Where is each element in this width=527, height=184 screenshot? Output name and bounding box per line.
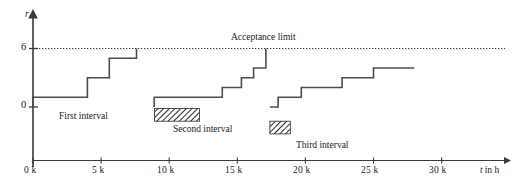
x-tick-label-15: 15 k: [225, 166, 242, 176]
series-second-interval: [154, 49, 266, 108]
x-tick-label-10: 10 k: [157, 166, 174, 176]
x-axis-label-symbol: t: [480, 165, 483, 175]
reliability-step-chart: r 6 0 0 k 5 k 10 k 15 k 20 k 25 k 30 k t…: [0, 0, 527, 184]
x-axis-label-unit: in h: [485, 165, 500, 175]
x-tick-label-25: 25 k: [361, 166, 378, 176]
y-tick-label-0: 0: [21, 100, 26, 111]
third-interval-label: Third interval: [296, 141, 349, 151]
series-third-interval: [270, 68, 414, 107]
x-tick-label-20: 20 k: [293, 166, 310, 176]
hatched-region-first: [155, 109, 200, 122]
chart-plot-area: [0, 0, 527, 184]
x-tick-label-5: 5 k: [92, 166, 104, 176]
first-interval-label: First interval: [59, 112, 108, 122]
x-tick-label-0: 0 k: [24, 166, 36, 176]
y-tick-label-6: 6: [21, 42, 26, 53]
second-interval-label: Second interval: [173, 125, 232, 135]
x-axis-label: tin h: [480, 166, 499, 176]
x-tick-label-30: 30 k: [429, 166, 446, 176]
acceptance-limit-label: Acceptance limit: [231, 33, 296, 43]
y-axis-label: r: [25, 10, 29, 20]
series-first-interval: [33, 49, 137, 108]
hatched-region-second: [270, 121, 290, 134]
